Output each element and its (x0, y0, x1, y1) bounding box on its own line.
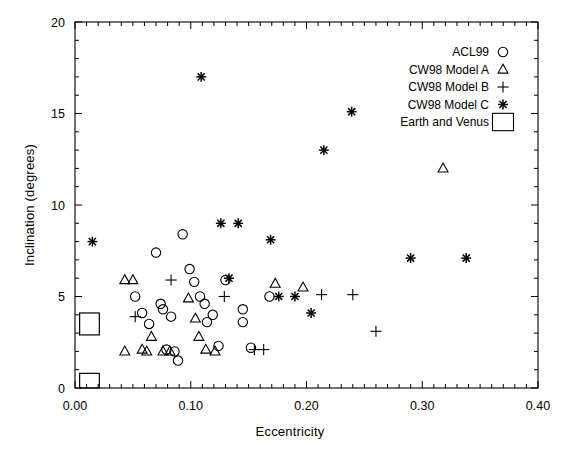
legend-marker-box (493, 113, 514, 130)
plot-canvas: 0.000.100.200.300.40 05101520 ACL99CW98 … (0, 0, 580, 464)
plot-frame (75, 22, 538, 388)
legend-marker-circle (498, 47, 507, 56)
legend: ACL99CW98 Model ACW98 Model BCW98 Model … (400, 45, 513, 130)
x-tick-label: 0.40 (526, 399, 550, 413)
y-tick-label: 0 (58, 382, 65, 396)
legend-marker-triangle (498, 64, 508, 73)
legend-label: ACL99 (452, 45, 489, 59)
x-axis-label: Eccentricity (0, 424, 580, 439)
legend-marker-asterisk (498, 100, 508, 110)
x-tick-label: 0.10 (179, 399, 203, 413)
series-cw98-model-b (130, 274, 382, 355)
scatter-plot-figure: 0.000.100.200.300.40 05101520 ACL99CW98 … (0, 0, 580, 464)
venus-box (80, 313, 100, 335)
legend-marker-plus (497, 81, 508, 92)
y-axis-label: Inclination (degrees) (22, 144, 37, 266)
earth-box (80, 373, 100, 388)
legend-label: CW98 Model A (409, 63, 489, 77)
x-tick-label: 0.30 (410, 399, 434, 413)
legend-label: CW98 Model B (408, 80, 489, 94)
y-axis-tick-labels: 05101520 (51, 16, 65, 396)
y-tick-label: 15 (51, 107, 65, 121)
y-tick-label: 5 (58, 290, 65, 304)
x-tick-label: 0.00 (63, 399, 87, 413)
legend-label: Earth and Venus (400, 115, 489, 129)
earth-venus-boxes (80, 313, 100, 388)
x-axis-tick-labels: 0.000.100.200.300.40 (63, 399, 550, 413)
y-axis-ticks (75, 22, 538, 388)
x-axis-ticks (75, 22, 538, 388)
x-tick-label: 0.20 (294, 399, 318, 413)
y-tick-label: 20 (51, 16, 65, 30)
legend-label: CW98 Model C (408, 98, 490, 112)
y-tick-label: 10 (51, 199, 65, 213)
series-acl99 (131, 230, 275, 366)
series-cw98-model-a (120, 163, 448, 355)
